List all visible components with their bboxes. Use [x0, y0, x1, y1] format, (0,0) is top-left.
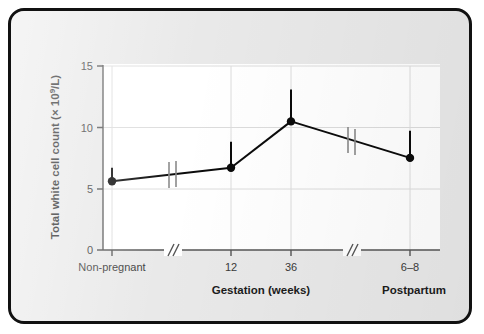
y-axis-title-multiplier: × 10: [49, 93, 61, 116]
y-tick-label-5: 5: [87, 183, 93, 195]
data-point-6-8[interactable]: [406, 154, 414, 162]
y-axis: [97, 65, 103, 250]
data-point-36[interactable]: [287, 117, 295, 125]
y-axis-title: Total white cell count (× 109/L): [48, 75, 62, 239]
y-axis-title-tail: /L): [49, 75, 61, 89]
data-point-12[interactable]: [227, 164, 235, 172]
y-tick-label-0: 0: [87, 244, 93, 256]
x-tick-label-6-8: 6–8: [401, 261, 419, 273]
plot-panel-background: [103, 64, 440, 250]
x-tick-label-36: 36: [285, 261, 297, 273]
y-axis-title-main: Total white cell count (: [49, 116, 61, 239]
x-axis-break-marker-2: [343, 244, 361, 256]
x-axis-group-label-postpartum: Postpartum: [382, 284, 446, 296]
x-tick-label-12: 12: [225, 261, 237, 273]
y-tick-label-10: 10: [81, 122, 93, 134]
line-chart: 15 10 5 0 Total white cell count (× 109/…: [11, 11, 472, 324]
x-axis-group-label-gestation: Gestation (weeks): [212, 284, 311, 296]
x-axis-break-marker-1: [164, 244, 182, 256]
figure-card: 15 10 5 0 Total white cell count (× 109/…: [8, 8, 472, 324]
x-tick-label-non-pregnant: Non-pregnant: [78, 261, 145, 273]
data-point-non-pregnant[interactable]: [108, 177, 116, 185]
y-tick-label-15: 15: [81, 60, 93, 72]
x-axis: [103, 250, 440, 256]
